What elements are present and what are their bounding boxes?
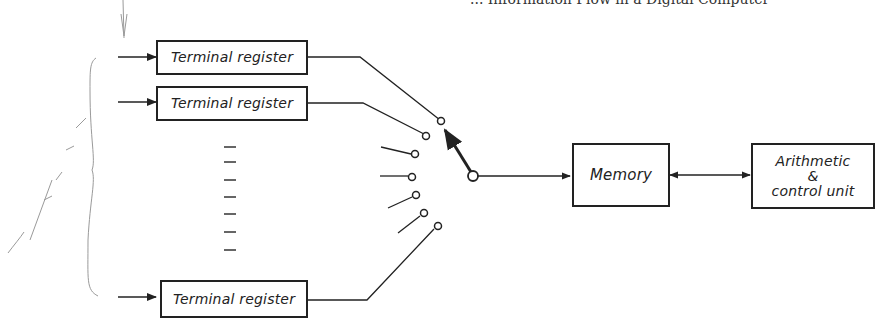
terminal-register-2: Terminal register bbox=[156, 86, 308, 121]
contact-3 bbox=[412, 151, 419, 158]
contact-6 bbox=[421, 210, 428, 217]
terminal-register-1: Terminal register bbox=[156, 40, 308, 75]
ellipsis-dashes bbox=[224, 147, 236, 250]
memory-box: Memory bbox=[572, 143, 670, 207]
diagram-canvas: ... Information Flow in a Digital Comput… bbox=[0, 0, 884, 333]
pencil-arrow-icon bbox=[121, 0, 127, 38]
contact-4 bbox=[409, 174, 416, 181]
arithmetic-label: Arithmetic bbox=[776, 154, 851, 169]
contact-2 bbox=[423, 133, 430, 140]
terminal-register-label: Terminal register bbox=[171, 50, 293, 65]
control-unit-label: control unit bbox=[772, 184, 855, 199]
switch-arm bbox=[445, 130, 471, 172]
terminal-register-label: Terminal register bbox=[173, 292, 295, 307]
arithmetic-control-unit-box: Arithmetic & control unit bbox=[751, 143, 875, 209]
memory-label: Memory bbox=[590, 168, 652, 183]
switch-pivot bbox=[468, 171, 478, 181]
ampersand-label: & bbox=[807, 169, 818, 184]
pencil-annotations bbox=[8, 0, 127, 296]
pencil-brace bbox=[88, 58, 98, 296]
terminal-register-n: Terminal register bbox=[160, 280, 308, 318]
contact-7 bbox=[435, 223, 442, 230]
contact-1 bbox=[438, 118, 445, 125]
switch-contacts bbox=[409, 118, 445, 230]
terminal-register-label: Terminal register bbox=[171, 96, 293, 111]
contact-5 bbox=[413, 192, 420, 199]
handwritten-note bbox=[8, 118, 86, 253]
